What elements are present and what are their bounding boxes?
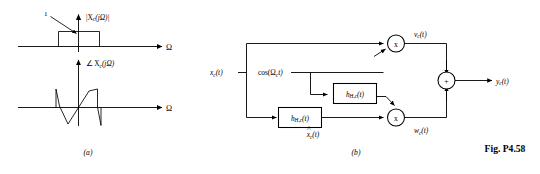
phase-ylabel: ∠Xc(jΩ) xyxy=(86,59,115,69)
wire-w-to-summer xyxy=(405,89,447,118)
signal-v-tail: (t) xyxy=(420,30,428,39)
carrier-prefix: cos(Ω xyxy=(258,68,276,77)
phase-xlabel: Ω xyxy=(166,104,172,113)
panel-a-group: |Xc(jΩ)| 1 Ω ∠Xc(jΩ) Ω (a) xyxy=(18,10,172,157)
panel-b-group: hH,c(t) hH,c(t) x x + xyxy=(209,30,509,158)
filter-bottom-tail: (t) xyxy=(302,114,310,123)
output-signal-label: yc(t) xyxy=(495,77,509,87)
signal-w-tail: (t) xyxy=(421,126,429,135)
magnitude-ylabel: |Xc(jΩ)| xyxy=(86,13,110,23)
summing-node-symbol: + xyxy=(444,77,448,86)
signal-v-label: vc(t) xyxy=(414,30,427,40)
panel-b-label: (b) xyxy=(352,148,361,157)
carrier-tail: t) xyxy=(278,68,283,77)
input-signal-label: xc(t) xyxy=(209,68,223,78)
wire-top-multiplier-second-input xyxy=(374,49,386,57)
input-signal-tail: (t) xyxy=(216,68,224,77)
angle-icon: ∠ xyxy=(86,59,93,68)
panel-a-label: (a) xyxy=(84,148,93,157)
carrier-label: cos(Ωct) xyxy=(258,68,283,78)
figure-caption: Fig. P4.58 xyxy=(485,143,526,154)
amplitude-leader-arrow xyxy=(51,17,77,34)
phase-ylabel-tail: (jΩ) xyxy=(102,59,115,68)
figure-canvas: |Xc(jΩ)| 1 Ω ∠Xc(jΩ) Ω (a) xyxy=(0,0,540,174)
figure-p4-58: |Xc(jΩ)| 1 Ω ∠Xc(jΩ) Ω (a) xyxy=(0,0,540,174)
multiplier-top-symbol: x xyxy=(394,40,398,49)
magnitude-ylabel-tail: (jΩ)| xyxy=(95,13,109,22)
signal-w-label: wc(t) xyxy=(414,126,429,136)
magnitude-rect-pulse xyxy=(59,32,100,47)
wire-v-to-summer xyxy=(405,44,447,73)
hat-accent-icon: ^ xyxy=(307,125,311,134)
filter-top-tail: (t) xyxy=(357,90,365,99)
amplitude-label: 1 xyxy=(44,10,48,18)
output-signal-tail: (t) xyxy=(502,77,510,86)
hilbert-output-tail: (t) xyxy=(312,130,320,139)
phase-plot xyxy=(18,60,162,126)
wire-top-filter-to-bottom-multiplier xyxy=(377,97,395,106)
multiplier-bottom-symbol: x xyxy=(394,114,398,123)
magnitude-xlabel: Ω xyxy=(166,43,172,52)
